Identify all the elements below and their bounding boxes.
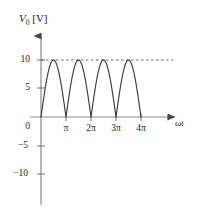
x-axis-label: ωt — [175, 119, 184, 128]
x-tick-label-2pi: 2π — [80, 124, 102, 134]
y-tick-label-5: 5 — [8, 83, 30, 93]
y-axis-subscript: 0 — [26, 18, 30, 27]
x-tick-label-pi: π — [55, 124, 77, 134]
y-tick-label-neg10: −10 — [6, 169, 28, 179]
y-tick-label-0: 0 — [8, 122, 30, 132]
y-axis-symbol: V — [19, 12, 26, 24]
y-tick-label-10: 10 — [8, 55, 30, 65]
y-tick-label-neg5: −5 — [6, 141, 28, 151]
plot-area — [0, 0, 200, 212]
chart-figure: V0 [V] ωt 10 5 0 −5 −10 π 2π 3π 4π — [0, 0, 200, 212]
x-tick-label-4pi: 4π — [130, 124, 152, 134]
rectified-sine-curve — [41, 60, 141, 117]
y-axis-unit: [V] — [32, 12, 47, 24]
y-axis-label: V0 [V] — [19, 13, 48, 27]
x-tick-label-3pi: 3π — [105, 124, 127, 134]
